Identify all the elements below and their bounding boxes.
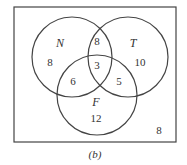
venn-diagram: N T F 8 8 10 3 6 5 12 8 (b) xyxy=(0,0,187,165)
circle-t xyxy=(88,17,168,97)
region-t-only: 10 xyxy=(135,56,147,68)
region-n-t: 8 xyxy=(94,35,100,47)
caption: (b) xyxy=(89,148,102,161)
region-n-f: 6 xyxy=(70,75,76,87)
region-f-only: 12 xyxy=(91,112,102,124)
label-t: T xyxy=(130,36,138,50)
label-f: F xyxy=(91,95,100,109)
region-n-only: 8 xyxy=(47,56,53,68)
label-n: N xyxy=(55,36,65,50)
region-t-f: 5 xyxy=(116,75,122,87)
region-outside: 8 xyxy=(156,124,162,136)
region-n-t-f: 3 xyxy=(94,59,100,71)
